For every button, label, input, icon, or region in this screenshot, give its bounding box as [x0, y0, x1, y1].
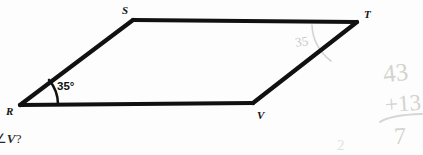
- vertex-label-s: S: [122, 5, 128, 16]
- scratch-stray-mark: 2: [337, 138, 345, 153]
- worksheet-canvas: R S T V 35° 35 re of ∠V? 43 +13 7 2: [0, 0, 423, 155]
- vertex-label-r: R: [6, 106, 13, 117]
- angle-label-t-handwritten: 35: [294, 34, 309, 49]
- angle-label-r: 35°: [57, 81, 74, 93]
- edge-s-t: [133, 20, 357, 22]
- question-variable: V: [7, 131, 16, 146]
- geometry-figure: [0, 0, 423, 155]
- scratch-addend-top: 43: [382, 59, 409, 86]
- vertex-label-v: V: [257, 110, 264, 121]
- question-text: re of ∠V?: [0, 131, 22, 147]
- question-prefix: re of ∠: [0, 131, 7, 146]
- edge-v-r: [20, 103, 253, 105]
- scratch-sum-result: 7: [393, 124, 406, 149]
- vertex-label-t: T: [364, 9, 371, 20]
- edge-r-s: [20, 20, 133, 105]
- question-suffix: ?: [16, 131, 22, 146]
